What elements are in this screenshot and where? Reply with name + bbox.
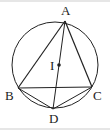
label-a: A: [61, 3, 71, 18]
label-i: I: [50, 58, 54, 73]
segment-cd: [53, 87, 92, 109]
geometry-diagram: A B C D I: [0, 0, 110, 131]
segment-ab: [18, 21, 65, 88]
label-b: B: [5, 88, 14, 103]
label-d: D: [49, 111, 58, 126]
point-i-dot: [57, 63, 61, 67]
bottom-border: [0, 128, 110, 130]
segment-bd: [18, 88, 53, 109]
label-c: C: [93, 88, 102, 103]
segment-ac: [65, 21, 92, 87]
segment-bc: [18, 87, 92, 88]
